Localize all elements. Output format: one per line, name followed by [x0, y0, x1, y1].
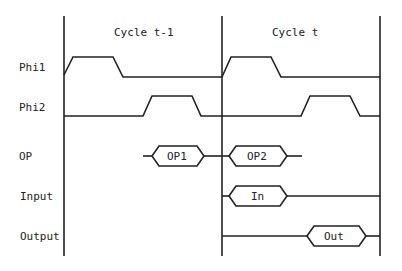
- output-bus: Out: [222, 226, 380, 246]
- signal-label-phi1: Phi1: [19, 61, 46, 74]
- op2-label: OP2: [247, 150, 267, 163]
- input-bus: In: [222, 186, 380, 206]
- timing-diagram: Cycle t-1 Cycle t Phi1 Phi2 OP Input Out…: [0, 0, 402, 271]
- signal-label-output: Output: [20, 230, 60, 243]
- cycle-label-current: Cycle t: [272, 26, 318, 39]
- out-label: Out: [324, 230, 344, 243]
- signal-label-input: Input: [20, 190, 53, 203]
- op1-label: OP1: [167, 150, 187, 163]
- in-label: In: [251, 190, 264, 203]
- signal-label-phi2: Phi2: [19, 101, 46, 114]
- signal-label-op: OP: [19, 150, 33, 163]
- cycle-label-prev: Cycle t-1: [114, 26, 174, 39]
